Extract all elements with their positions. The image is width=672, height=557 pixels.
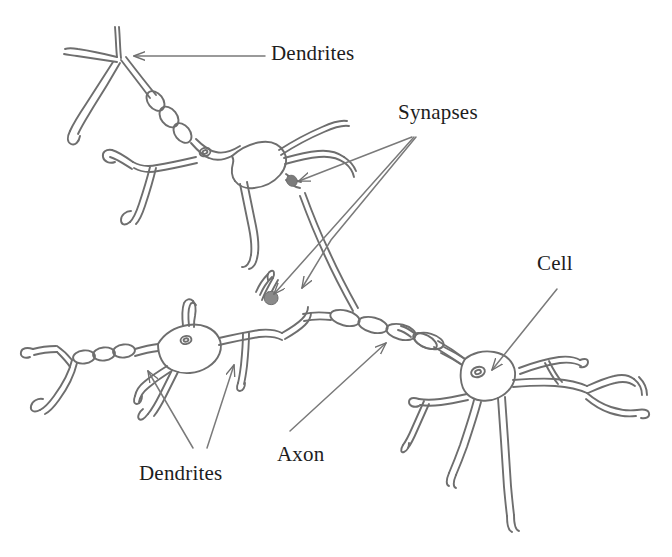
- leader-dendrites-bottom-1: [148, 371, 193, 448]
- label-cell: Cell: [537, 251, 573, 276]
- leader-axon: [290, 343, 386, 431]
- figure-canvas: Dendrites Synapses Cell Axon Dendrites: [0, 0, 672, 557]
- label-axon: Axon: [277, 442, 324, 467]
- leader-dendrites-bottom-2: [207, 365, 234, 448]
- leader-cell: [492, 289, 557, 370]
- label-dendrites-top: Dendrites: [271, 41, 354, 66]
- leader-lines: [134, 56, 557, 448]
- leader-synapses-3: [302, 137, 416, 288]
- label-dendrites-bottom: Dendrites: [139, 461, 222, 486]
- neuron-diagram-svg: [0, 0, 672, 557]
- neuron-lower: [21, 271, 465, 420]
- label-synapses: Synapses: [398, 100, 478, 125]
- neuron-lower-right: [398, 326, 649, 532]
